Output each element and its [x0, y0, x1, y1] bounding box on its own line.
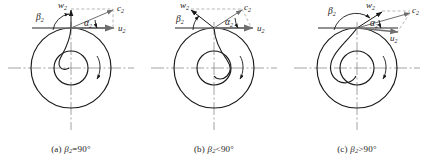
blade-curve: [214, 28, 230, 79]
panel-c: w2 c2 u2 β2 α2 (c) β2>90°: [286, 0, 428, 158]
label-c2: c2: [412, 5, 419, 16]
caption-a: (a) β2=90°: [0, 144, 142, 154]
label-u2: u2: [118, 23, 126, 34]
caption-b-relation: <90°: [216, 144, 234, 154]
caption-b: (b) β2<90°: [143, 144, 285, 154]
caption-a-relation: =90°: [72, 144, 90, 154]
label-u2: u2: [390, 33, 398, 44]
label-c2: c2: [117, 3, 124, 14]
vector-c2: [71, 10, 113, 28]
caption-c: (c) β2>90°: [286, 144, 428, 154]
caption-c-prefix: (c): [337, 144, 348, 154]
label-u2: u2: [257, 23, 265, 34]
label-beta2: β2: [327, 6, 336, 17]
label-w2: w2: [180, 0, 189, 11]
label-beta2: β2: [175, 14, 184, 25]
label-alpha2: α2: [225, 17, 233, 28]
label-w2: w2: [366, 0, 375, 11]
caption-a-prefix: (a): [51, 144, 62, 154]
panel-b: w2 c2 u2 β2 α2 (b) β2<90°: [143, 0, 285, 158]
rotation-arrow: [383, 56, 386, 79]
label-w2: w2: [58, 0, 67, 11]
blade-curve: [59, 28, 71, 69]
vector-w2: [191, 10, 214, 28]
rotation-arrow: [240, 56, 243, 79]
angle-arc-alpha2: [95, 20, 97, 28]
label-beta2: β2: [35, 12, 44, 23]
blade-curve: [331, 28, 357, 83]
panel-a: w2 c2 u2 β2 α2 (a) β2=90°: [0, 0, 142, 158]
velocity-triangle-figure: w2 c2 u2 β2 α2 (a) β2=90°: [0, 0, 428, 158]
rotation-arrow: [97, 56, 100, 79]
caption-b-prefix: (b): [194, 144, 205, 154]
caption-c-relation: >90°: [358, 144, 376, 154]
angle-arc-alpha2: [235, 18, 238, 28]
label-alpha2: α2: [370, 18, 378, 29]
label-c2: c2: [244, 2, 251, 13]
